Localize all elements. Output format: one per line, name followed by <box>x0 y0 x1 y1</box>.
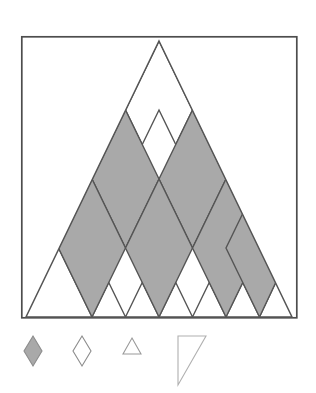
figure-root <box>0 0 316 393</box>
geometric-figure-canvas <box>0 0 316 393</box>
